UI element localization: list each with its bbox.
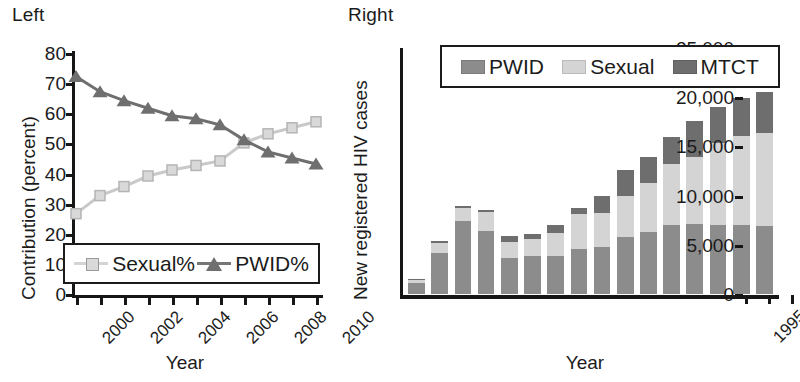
bar-segment-pwid — [617, 237, 634, 294]
left-x-axis-label: Year — [110, 352, 260, 374]
legend-entry-sexual: Sexual — [562, 55, 654, 79]
left-y-tick-mark — [66, 83, 73, 86]
bar-2004 — [617, 170, 634, 294]
right-y-tick-0: 0 — [650, 285, 734, 304]
legend-label-mtct: MTCT — [701, 55, 759, 79]
left-x-tick-2004: 2004 — [195, 308, 234, 347]
bar-2003 — [594, 196, 611, 294]
bar-segment-mtct — [571, 208, 588, 214]
left-x-tick-mark — [172, 297, 175, 305]
left-y-tick-30: 30 — [14, 195, 66, 214]
left-x-tick-2002: 2002 — [147, 308, 186, 347]
bar-segment-mtct — [756, 92, 773, 132]
bar-segment-sexual — [455, 208, 472, 221]
bar-segment-pwid — [594, 247, 611, 294]
left-legend: Sexual% PWID% — [63, 243, 320, 284]
bar-segment-sexual — [594, 213, 611, 246]
pwid-swatch-icon — [461, 60, 485, 74]
legend-label-pwid: PWID — [489, 55, 544, 79]
right-x-tick-mark — [745, 295, 748, 304]
bar-segment-pwid — [756, 226, 773, 294]
panel-tag-left: Left — [12, 4, 45, 26]
right-x-tick-mark — [791, 295, 794, 304]
left-y-tick-0: 0 — [14, 285, 66, 304]
bar-2006 — [663, 137, 680, 294]
left-y-tick-60: 60 — [14, 104, 66, 123]
left-y-tick-40: 40 — [14, 165, 66, 184]
bar-segment-pwid — [408, 283, 425, 294]
legend-entry-pwid-pct: PWID% — [197, 252, 309, 276]
bar-segment-mtct — [594, 196, 611, 214]
bar-segment-mtct — [733, 98, 750, 135]
bar-segment-pwid — [571, 249, 588, 294]
right-x-tick-mark — [768, 295, 771, 304]
PWID%-marker — [261, 145, 276, 157]
right-y-tick-mark — [735, 146, 743, 149]
left-x-tick-mark — [148, 297, 151, 305]
Sexual%-marker — [167, 165, 177, 175]
bar-segment-pwid — [733, 225, 750, 294]
legend-entry-sexual-pct: Sexual% — [74, 252, 195, 276]
bar-segment-mtct — [640, 157, 657, 183]
right-x-axis-label: Year — [510, 352, 660, 374]
bar-segment-mtct — [431, 241, 448, 243]
left-x-tick-mark — [244, 297, 247, 305]
bar-1995 — [408, 279, 425, 294]
bar-segment-pwid — [455, 221, 472, 294]
legend-label-pwid-pct: PWID% — [235, 252, 309, 276]
left-x-tick-2008: 2008 — [291, 308, 330, 347]
bar-segment-mtct — [501, 236, 518, 242]
right-y-tick-20,000: 20,000 — [650, 88, 734, 107]
sexual-swatch-icon — [562, 60, 586, 74]
left-y-tick-20: 20 — [14, 225, 66, 244]
right-y-tick-mark — [735, 245, 743, 248]
Sexual%-marker — [95, 191, 105, 201]
bar-segment-sexual — [524, 239, 541, 256]
right-y-axis — [400, 48, 403, 298]
pwid-line-swatch-icon — [197, 262, 231, 265]
panel-tag-right: Right — [348, 4, 393, 26]
mtct-swatch-icon — [673, 60, 697, 74]
left-x-tick-mark — [316, 297, 319, 305]
bar-segment-mtct — [455, 206, 472, 208]
right-y-tick-mark — [735, 196, 743, 199]
bar-segment-pwid — [547, 256, 564, 294]
right-chart-panel: Right New registered HIV cases 05,00010,… — [340, 0, 800, 382]
left-y-tick-mark — [66, 174, 73, 177]
left-y-tick-80: 80 — [14, 44, 66, 63]
left-y-tick-70: 70 — [14, 74, 66, 93]
bar-segment-mtct — [547, 225, 564, 233]
left-x-tick-mark — [124, 297, 127, 305]
Sexual%-marker — [287, 123, 297, 133]
left-x-tick-mark — [76, 297, 79, 305]
left-x-tick-mark — [196, 297, 199, 305]
bar-segment-sexual — [571, 214, 588, 248]
bar-2002 — [571, 208, 588, 294]
bar-1996 — [431, 241, 448, 294]
bar-segment-pwid — [524, 256, 541, 294]
bar-1997 — [455, 206, 472, 294]
right-y-tick-mark — [735, 294, 743, 297]
bar-segment-sexual — [501, 242, 518, 258]
bar-segment-sexual — [478, 212, 495, 231]
left-x-tick-mark — [268, 297, 271, 305]
legend-label-sexual-pct: Sexual% — [112, 252, 195, 276]
right-y-axis-label: New registered HIV cases — [350, 80, 372, 300]
Sexual%-marker — [71, 209, 81, 219]
left-y-tick-mark — [66, 53, 73, 56]
left-x-tick-mark — [292, 297, 295, 305]
right-y-tick-mark — [735, 97, 743, 100]
left-y-tick-mark — [66, 204, 73, 207]
Sexual%-marker — [215, 156, 225, 166]
Sexual%-marker — [143, 171, 153, 181]
left-y-tick-10: 10 — [14, 255, 66, 274]
bar-segment-sexual — [756, 133, 773, 226]
bar-1999 — [501, 236, 518, 294]
bar-segment-mtct — [524, 234, 541, 239]
left-x-tick-2006: 2006 — [243, 308, 282, 347]
bar-segment-mtct — [478, 210, 495, 212]
bar-segment-sexual — [408, 280, 425, 283]
right-x-tick-1995: 1995 — [770, 307, 800, 346]
right-y-tick-15,000: 15,000 — [650, 137, 734, 156]
legend-label-sexual: Sexual — [590, 55, 654, 79]
